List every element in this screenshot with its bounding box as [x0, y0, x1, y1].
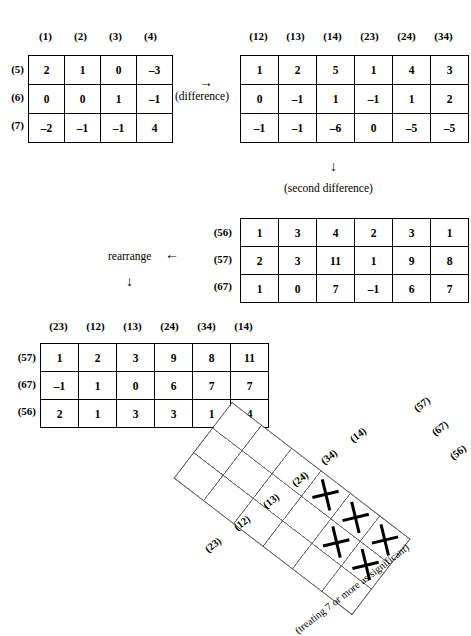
cell: –1: [65, 114, 101, 143]
cell: 1: [355, 247, 393, 275]
cell: –2: [29, 114, 65, 143]
first-table-row-headers: (5) (6) (7): [0, 55, 28, 139]
table-row: 1 2 3 9 8 11: [41, 344, 269, 372]
cell: 0: [29, 85, 65, 114]
cell: 4: [393, 56, 431, 85]
cell: –6: [317, 114, 355, 143]
first-table-col-header-0: (1): [28, 30, 63, 42]
cell: 3: [393, 219, 431, 247]
second-difference-table-row-headers: (56) (57) (67): [200, 218, 236, 299]
cell: 1: [79, 372, 117, 400]
rearranged-table-column-headers: (23) (12) (13) (24) (34) (14): [40, 320, 262, 332]
cell: 2: [41, 400, 79, 428]
table-row: –1 –1 –6 0 –5 –5: [241, 114, 469, 143]
first-table-col-header-3: (4): [133, 30, 168, 42]
first-table-row-header-2: (7): [0, 111, 28, 139]
first-table-row-header-1: (6): [0, 83, 28, 111]
tilted-col-header-23: (23): [203, 535, 224, 554]
first-table-row-header-0: (5): [0, 55, 28, 83]
cell: 1: [101, 85, 137, 114]
cell: 0: [117, 372, 155, 400]
cell: –5: [393, 114, 431, 143]
rearrange-arrow-icon: ←: [165, 248, 179, 262]
cell: –1: [279, 85, 317, 114]
first-table-col-header-1: (2): [63, 30, 98, 42]
rearranged-table-row-header-1: (67): [0, 370, 40, 397]
cell: 1: [393, 85, 431, 114]
first-table-column-headers: (1) (2) (3) (4): [28, 30, 168, 42]
cell: –5: [431, 114, 469, 143]
table-row: 0 –1 1 –1 1 2: [241, 85, 469, 114]
difference-table-column-headers: (12) (13) (14) (23) (24) (34): [240, 30, 462, 42]
cell: 2: [241, 247, 279, 275]
difference-arrow-icon: →: [199, 76, 213, 90]
cell: 2: [279, 56, 317, 85]
difference-label: (difference): [175, 90, 229, 102]
cell: 1: [355, 56, 393, 85]
cell: 9: [155, 344, 193, 372]
cell: 3: [279, 219, 317, 247]
second-difference-label: (second difference): [284, 182, 373, 194]
cell: 4: [317, 219, 355, 247]
rearranged-table-col-header-0: (23): [40, 320, 77, 332]
cell: 1: [431, 219, 469, 247]
rearranged-table-col-header-2: (13): [114, 320, 151, 332]
cell: 2: [431, 85, 469, 114]
second-difference-table-row-header-2: (67): [200, 272, 236, 299]
rearrange-label: rearrange: [108, 250, 151, 262]
tilted-grid-table: [174, 402, 411, 615]
cell: 9: [393, 247, 431, 275]
cell: 2: [355, 219, 393, 247]
table-row: 2 3 11 1 9 8: [241, 247, 469, 275]
cell: 7: [431, 275, 469, 303]
cell: –1: [41, 372, 79, 400]
difference-table-col-header-5: (34): [425, 30, 462, 42]
tilted-row-header-67: (67): [430, 418, 451, 437]
cell: 7: [193, 372, 231, 400]
second-difference-table-row-header-1: (57): [200, 245, 236, 272]
cell: 6: [155, 372, 193, 400]
second-difference-table-row-header-0: (56): [200, 218, 236, 245]
cell: 3: [279, 247, 317, 275]
rearranged-table-row-header-0: (57): [0, 343, 40, 370]
tilted-grid: (23) (12) (13) (24) (34) (14) (57) (67) …: [232, 402, 471, 634]
table-row: 1 3 4 2 3 1: [241, 219, 469, 247]
cell: 1: [241, 56, 279, 85]
difference-table-col-header-3: (23): [351, 30, 388, 42]
cell: 0: [241, 85, 279, 114]
cell: 0: [65, 85, 101, 114]
rearranged-table-col-header-1: (12): [77, 320, 114, 332]
second-difference-arrow-icon: ↓: [330, 160, 337, 174]
cell: 4: [137, 114, 173, 143]
difference-table-col-header-4: (24): [388, 30, 425, 42]
table-row: 2 1 0 –3: [29, 56, 173, 85]
second-difference-table: 1 3 4 2 3 1 2 3 11 1 9 8 1 0 7 –1 6 7: [240, 218, 469, 303]
cell: 11: [231, 344, 269, 372]
cell: 0: [279, 275, 317, 303]
cell: 3: [431, 56, 469, 85]
cell: –1: [101, 114, 137, 143]
cell: 1: [241, 275, 279, 303]
rearranged-table-col-header-3: (24): [151, 320, 188, 332]
table-row: 0 0 1 –1: [29, 85, 173, 114]
cell: 1: [79, 400, 117, 428]
first-table: 2 1 0 –3 0 0 1 –1 –2 –1 –1 4: [28, 55, 173, 143]
cell: 1: [241, 219, 279, 247]
rearranged-table-row-headers: (57) (67) (56): [0, 343, 40, 424]
cell: –3: [137, 56, 173, 85]
difference-table-col-header-0: (12): [240, 30, 277, 42]
cell: 6: [393, 275, 431, 303]
cell: 3: [117, 344, 155, 372]
cell: 8: [431, 247, 469, 275]
table-row: –1 1 0 6 7 7: [41, 372, 269, 400]
cell: 7: [231, 372, 269, 400]
rearranged-table-row-header-2: (56): [0, 397, 40, 424]
first-table-col-header-2: (3): [98, 30, 133, 42]
rearranged-table-col-header-4: (34): [188, 320, 225, 332]
cell: 2: [79, 344, 117, 372]
tilted-col-header-14: (14): [348, 425, 369, 444]
cell: 7: [317, 275, 355, 303]
table-row: 1 0 7 –1 6 7: [241, 275, 469, 303]
tilted-row-header-57: (57): [412, 394, 433, 413]
cell: 11: [317, 247, 355, 275]
